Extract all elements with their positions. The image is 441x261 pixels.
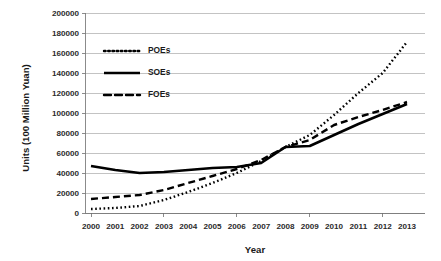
x-axis-tick-label: 2007 <box>252 222 271 231</box>
x-axis-title: Year <box>245 244 266 255</box>
x-axis-tick-label: 2001 <box>106 222 125 231</box>
x-axis-tick-label: 2008 <box>276 222 295 231</box>
x-axis-tick-label: 2006 <box>228 222 247 231</box>
y-axis-tick-label: 0 <box>74 209 79 218</box>
y-axis-tick-label: 200000 <box>52 9 80 18</box>
x-axis-tick-label: 2003 <box>155 222 174 231</box>
chart-canvas: 0200004000060000800001000001200001400001… <box>0 0 441 261</box>
legend-label-foes: FOEs <box>148 89 170 99</box>
y-axis-tick-label: 100000 <box>52 109 80 118</box>
x-axis-tick-label: 2010 <box>325 222 344 231</box>
y-axis-tick-label: 160000 <box>52 49 80 58</box>
x-axis-tick-label: 2011 <box>350 222 368 231</box>
y-axis-title: Units (100 Million Yuan) <box>20 64 31 172</box>
x-axis-tick-label: 2013 <box>398 222 417 231</box>
y-axis-tick-label: 40000 <box>56 169 79 178</box>
y-axis-tick-label: 140000 <box>52 69 80 78</box>
x-axis-tick-label: 2005 <box>204 222 223 231</box>
x-axis-tick-label: 2000 <box>82 222 101 231</box>
x-axis-tick-label: 2012 <box>374 222 393 231</box>
x-axis-tick-label: 2009 <box>301 222 320 231</box>
y-axis-tick-label: 120000 <box>52 89 80 98</box>
line-chart: 0200004000060000800001000001200001400001… <box>0 0 441 261</box>
x-axis-tick-label: 2002 <box>131 222 150 231</box>
y-axis-tick-label: 80000 <box>56 129 79 138</box>
y-axis-tick-label: 20000 <box>56 189 79 198</box>
y-axis-tick-label: 60000 <box>56 149 79 158</box>
legend-label-poes: POEs <box>148 45 171 55</box>
legend-label-soes: SOEs <box>148 67 171 77</box>
x-axis-tick-label: 2004 <box>179 222 198 231</box>
y-axis-tick-label: 180000 <box>52 29 80 38</box>
